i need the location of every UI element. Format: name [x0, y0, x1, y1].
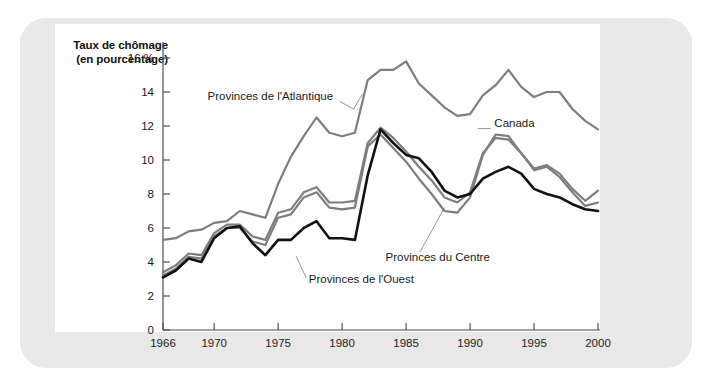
y-tick-label: 14: [141, 86, 154, 98]
x-tick-label: 1985: [393, 337, 419, 349]
series-label-0: Provinces de l'Atlantique: [208, 90, 334, 102]
y-tick-label: 6: [148, 222, 154, 234]
y-tick-label: 4: [148, 256, 155, 268]
data-line-series-2: [163, 135, 598, 276]
x-tick-label: 1975: [265, 337, 291, 349]
y-axis-ticks-group: 0246810121416 %: [128, 52, 170, 336]
y-tick-label: 12: [141, 120, 154, 132]
y-tick-label: 8: [148, 188, 154, 200]
series-labels-group: Provinces de l'AtlantiqueCanadaProvinces…: [208, 90, 536, 286]
chart-screenshot: Taux de chômage (en pourcentage) 0246810…: [0, 0, 710, 390]
series-label-3: Provinces de l'Ouest: [309, 273, 415, 285]
series-leader-line-0: [340, 94, 363, 109]
x-axis-ticks-group: 19661970197519801985199019952000: [150, 323, 611, 349]
y-tick-label: 0: [148, 324, 154, 336]
series-label-2: Provinces du Centre: [386, 251, 490, 263]
x-tick-label: 1966: [150, 337, 176, 349]
data-line-series-1: [163, 128, 598, 273]
y-tick-label: 2: [148, 290, 154, 302]
x-tick-label: 1995: [521, 337, 547, 349]
y-tick-label: 16 %: [128, 52, 154, 64]
line-chart: 0246810121416 % 196619701975198019851990…: [0, 0, 710, 390]
data-line-series-0: [163, 61, 598, 240]
series-leader-line-2: [420, 208, 444, 252]
x-tick-label: 1980: [329, 337, 355, 349]
data-line-series-3: [163, 129, 598, 277]
x-tick-label: 1970: [201, 337, 227, 349]
x-tick-label: 1990: [457, 337, 483, 349]
axes-group: [163, 42, 600, 330]
series-leader-line-3: [296, 256, 306, 278]
x-tick-label: 2000: [585, 337, 611, 349]
y-tick-label: 10: [141, 154, 154, 166]
series-label-1: Canada: [494, 117, 535, 129]
